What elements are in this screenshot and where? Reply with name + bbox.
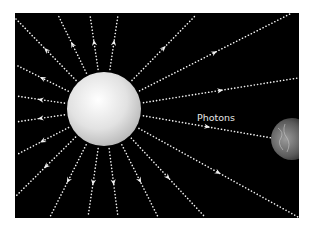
sun xyxy=(67,72,141,146)
photon-diagram: Photons xyxy=(0,0,316,227)
earth xyxy=(271,118,313,160)
photons-label: Photons xyxy=(197,112,235,123)
